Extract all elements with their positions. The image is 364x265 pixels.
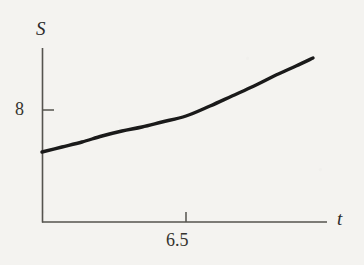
figure-container: S t 8 6.5 [0, 0, 364, 265]
x-axis-label: t [337, 209, 342, 228]
y-axis-tick-label: 8 [15, 100, 24, 118]
plot-canvas [0, 0, 364, 265]
y-axis-label: S [36, 19, 46, 38]
data-curve-s-of-t [42, 58, 313, 152]
x-axis-tick-label: 6.5 [166, 231, 189, 249]
